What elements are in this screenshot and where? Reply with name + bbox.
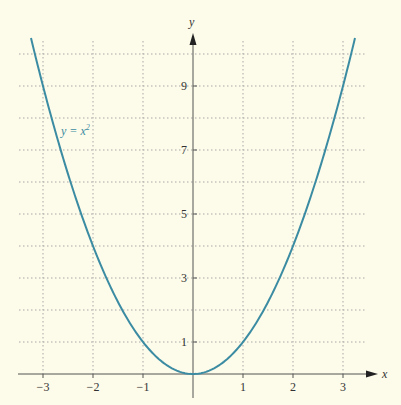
x-tick-label: −1 bbox=[137, 380, 150, 394]
curve-label-sup: 2 bbox=[86, 123, 90, 132]
y-tick-label: 9 bbox=[181, 79, 187, 93]
y-axis-label: y bbox=[188, 15, 195, 29]
parabola-chart: x y −3−2−112313579 y = x2 bbox=[0, 0, 401, 405]
curve-label: y = x2 bbox=[60, 123, 90, 138]
x-tick-label: 2 bbox=[290, 380, 296, 394]
axes: x y bbox=[18, 15, 388, 398]
curve-label-main: y = x bbox=[60, 124, 86, 138]
x-tick-label: −2 bbox=[87, 380, 100, 394]
y-tick-label: 7 bbox=[181, 143, 187, 157]
y-axis-arrow-icon bbox=[190, 33, 197, 45]
y-tick-label: 1 bbox=[181, 335, 187, 349]
x-tick-label: −3 bbox=[37, 380, 50, 394]
y-tick-label: 5 bbox=[181, 207, 187, 221]
x-axis-label: x bbox=[381, 367, 388, 381]
x-tick-label: 3 bbox=[340, 380, 346, 394]
x-tick-label: 1 bbox=[240, 380, 246, 394]
y-tick-label: 3 bbox=[181, 271, 187, 285]
x-axis-arrow-icon bbox=[366, 371, 378, 378]
